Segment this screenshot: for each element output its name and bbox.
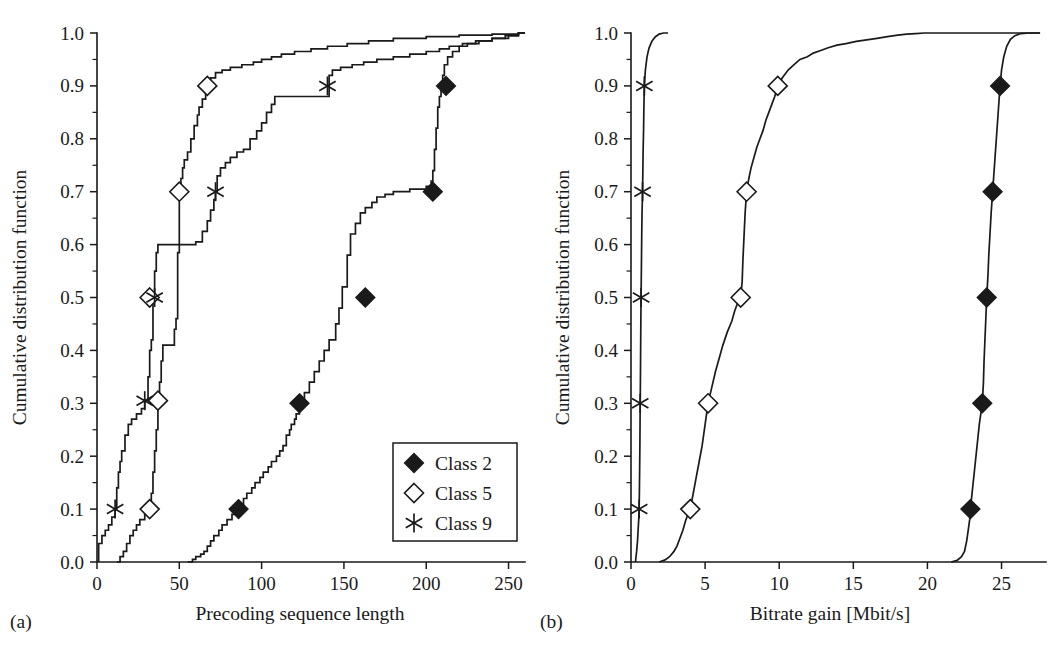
x-tick-label: 50 — [170, 573, 189, 594]
panel-tag: (a) — [10, 611, 32, 633]
marker-open-diamond-class-5 — [170, 182, 189, 201]
marker-open-diamond-class-5 — [737, 182, 756, 201]
marker-filled-diamond-class-2 — [290, 394, 309, 413]
y-tick-label: 0.7 — [60, 181, 84, 202]
y-axis-title: Cumulative distribution function — [552, 169, 573, 425]
marker-open-diamond-class-5 — [768, 76, 787, 95]
y-tick-label: 0.9 — [594, 75, 618, 96]
x-tick-label: 25 — [992, 573, 1011, 594]
marker-filled-diamond-class-2 — [977, 288, 996, 307]
x-tick-label: 150 — [330, 573, 359, 594]
y-tick-label: 0.1 — [60, 499, 84, 520]
y-tick-label: 1.0 — [60, 23, 84, 44]
marker-open-diamond-class-5 — [681, 500, 700, 519]
x-axis-title: Precoding sequence length — [195, 603, 404, 624]
y-tick-label: 1.0 — [594, 23, 618, 44]
marker-filled-diamond-class-2 — [983, 182, 1002, 201]
marker-open-diamond-class-5 — [148, 391, 167, 410]
y-tick-label: 0.1 — [594, 499, 618, 520]
y-tick-label: 0.0 — [60, 552, 84, 573]
x-tick-label: 20 — [918, 573, 937, 594]
y-tick-label: 0.0 — [594, 552, 618, 573]
marker-filled-diamond-class-2 — [961, 500, 980, 519]
y-tick-label: 0.4 — [60, 340, 84, 361]
marker-open-diamond-class-5 — [731, 288, 750, 307]
legend-label-class-5: Class 5 — [435, 483, 492, 504]
y-tick-label: 0.9 — [60, 75, 84, 96]
y-tick-label: 0.5 — [60, 287, 84, 308]
x-tick-label: 200 — [412, 573, 441, 594]
marker-filled-diamond-class-2 — [991, 76, 1010, 95]
y-tick-label: 0.3 — [594, 393, 618, 414]
marker-asterisk-class-9 — [634, 182, 650, 201]
panel-a-svg: 0.00.10.20.30.40.50.60.70.80.91.00501001… — [0, 0, 531, 650]
marker-asterisk-class-9 — [319, 76, 335, 95]
x-tick-label: 100 — [247, 573, 276, 594]
x-tick-label: 15 — [844, 573, 863, 594]
marker-open-diamond-class-5 — [699, 394, 718, 413]
chart-panel-a: 0.00.10.20.30.40.50.60.70.80.91.00501001… — [0, 0, 531, 650]
marker-asterisk-class-9 — [632, 394, 648, 413]
y-tick-label: 0.5 — [594, 287, 618, 308]
x-tick-label: 5 — [700, 573, 710, 594]
marker-filled-diamond-class-2 — [436, 76, 455, 95]
marker-asterisk-class-9 — [636, 76, 652, 95]
x-tick-label: 250 — [494, 573, 523, 594]
y-tick-label: 0.6 — [594, 234, 618, 255]
marker-asterisk-class-9 — [633, 288, 649, 307]
x-axis-title: Bitrate gain [Mbit/s] — [750, 603, 910, 624]
x-tick-label: 0 — [92, 573, 102, 594]
x-tick-label: 10 — [770, 573, 789, 594]
y-tick-label: 0.3 — [60, 393, 84, 414]
y-tick-label: 0.8 — [594, 128, 618, 149]
y-axis-title: Cumulative distribution function — [9, 169, 30, 425]
y-tick-label: 0.8 — [60, 128, 84, 149]
legend-label-class-9: Class 9 — [435, 513, 492, 534]
x-tick-label: 0 — [626, 573, 636, 594]
panel-b-svg: 0.00.10.20.30.40.50.60.70.80.91.00510152… — [531, 0, 1062, 650]
chart-panel-b: 0.00.10.20.30.40.50.60.70.80.91.00510152… — [531, 0, 1062, 650]
marker-open-diamond-class-5 — [140, 500, 159, 519]
marker-filled-diamond-class-2 — [973, 394, 992, 413]
marker-filled-diamond-class-2 — [356, 288, 375, 307]
figure-container: 0.00.10.20.30.40.50.60.70.80.91.00501001… — [0, 0, 1062, 650]
y-tick-label: 0.2 — [60, 446, 84, 467]
marker-open-diamond-class-5 — [198, 76, 217, 95]
legend-label-class-2: Class 2 — [435, 453, 492, 474]
marker-open-diamond-class-5 — [140, 288, 159, 307]
y-tick-label: 0.2 — [594, 446, 618, 467]
y-tick-label: 0.4 — [594, 340, 618, 361]
marker-asterisk-class-9 — [207, 182, 223, 201]
marker-filled-diamond-class-2 — [423, 182, 442, 201]
y-tick-label: 0.7 — [594, 181, 618, 202]
marker-asterisk-class-9 — [107, 500, 123, 519]
marker-asterisk-class-9 — [631, 500, 647, 519]
panel-tag: (b) — [540, 611, 563, 633]
y-tick-label: 0.6 — [60, 234, 84, 255]
